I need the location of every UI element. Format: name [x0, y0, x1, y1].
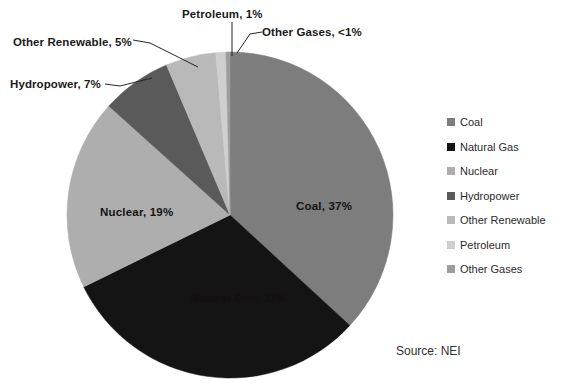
- legend-swatch-icon: [447, 216, 455, 224]
- legend-item-label: Other Renewable: [460, 214, 546, 226]
- legend-swatch-icon: [447, 265, 455, 273]
- slice-label-natural-gas: Natural Gas, 31%: [190, 292, 287, 304]
- slice-label-nuclear: Nuclear, 19%: [100, 206, 173, 218]
- slice-label-coal: Coal, 37%: [296, 200, 352, 212]
- legend-swatch-icon: [447, 241, 455, 249]
- legend-item-label: Nuclear: [460, 165, 498, 177]
- legend-item-other-gases[interactable]: Other Gases: [447, 257, 565, 282]
- source-attribution: Source: NEI: [396, 344, 461, 358]
- legend-item-hydropower[interactable]: Hydropower: [447, 184, 565, 209]
- legend-item-label: Coal: [460, 116, 483, 128]
- legend-item-label: Other Gases: [460, 263, 522, 275]
- callout-label-hydropower: Hydropower, 7%: [10, 78, 101, 90]
- legend-swatch-icon: [447, 143, 455, 151]
- legend-item-label: Natural Gas: [460, 141, 519, 153]
- leader-line-other-gases: [237, 32, 262, 53]
- legend-item-petroleum[interactable]: Petroleum: [447, 233, 565, 258]
- legend-item-natural-gas[interactable]: Natural Gas: [447, 135, 565, 160]
- callout-label-other-gases: Other Gases, <1%: [262, 26, 362, 38]
- legend-item-label: Petroleum: [460, 239, 510, 251]
- callout-label-petroleum: Petroleum, 1%: [182, 8, 263, 20]
- legend-item-coal[interactable]: Coal: [447, 110, 565, 135]
- chart-legend: Coal Natural Gas Nuclear Hydropower Othe…: [447, 110, 565, 282]
- pie-chart-figure: Other Renewable, 5% Hydropower, 7% Petro…: [0, 0, 566, 392]
- legend-item-label: Hydropower: [460, 190, 519, 202]
- callout-label-other-renewable: Other Renewable, 5%: [13, 36, 132, 48]
- legend-swatch-icon: [447, 118, 455, 126]
- legend-swatch-icon: [447, 192, 455, 200]
- legend-item-nuclear[interactable]: Nuclear: [447, 159, 565, 184]
- legend-item-other-renewable[interactable]: Other Renewable: [447, 208, 565, 233]
- legend-swatch-icon: [447, 167, 455, 175]
